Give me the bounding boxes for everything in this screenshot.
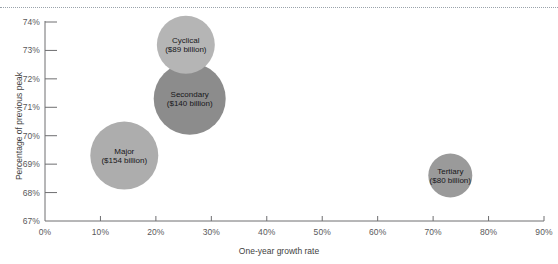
y-tick-label: 67% [8,216,40,226]
x-tick-label: 40% [258,227,275,237]
y-axis-title: Percentage of previous peak [14,51,24,201]
x-tick-label: 90% [535,227,552,237]
bubble-tertiary[interactable] [428,154,472,198]
bubble-major[interactable] [90,122,158,190]
x-tick-label: 30% [203,227,220,237]
y-tick-label: 72% [8,74,40,84]
bubble-cyclical[interactable] [157,16,215,74]
chart-plot-area [0,0,558,264]
bubble-chart: 67%68%69%70%71%72%73%74% 0%10%20%30%40%5… [0,0,558,264]
y-tick-label: 70% [8,131,40,141]
y-tick-label: 69% [8,159,40,169]
x-tick-label: 70% [424,227,441,237]
axis-lines [45,21,544,221]
x-tick-label: 50% [314,227,331,237]
y-tick-label: 71% [8,102,40,112]
x-tick-label: 10% [92,227,109,237]
x-axis-title: One-year growth rate [239,246,319,256]
x-tick-label: 20% [147,227,164,237]
bubble-series [90,16,472,198]
x-tick-label: 60% [369,227,386,237]
y-tick-label: 68% [8,188,40,198]
axis-tick-marks [45,22,544,221]
y-tick-label: 74% [8,17,40,27]
x-tick-label: 80% [480,227,497,237]
y-tick-label: 73% [8,45,40,55]
bubble-secondary[interactable] [154,63,226,135]
x-tick-label: 0% [39,227,52,237]
